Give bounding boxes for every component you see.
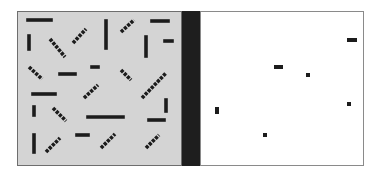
right-panel-frame [201,12,364,166]
mark-5 [347,102,351,106]
right-panel-sparse-marks [201,12,364,166]
mark-1 [347,38,357,42]
mark-4 [215,107,219,114]
stimulus-figure [0,0,379,172]
separator-bar [182,11,200,166]
mark-6 [263,133,267,137]
mark-2 [274,65,283,69]
left-panel-frame [18,12,182,166]
mark-3 [306,73,310,77]
left-panel-textured-segments [18,12,182,166]
